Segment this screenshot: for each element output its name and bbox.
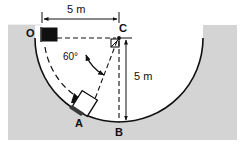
physics-diagram: O C A B 5 m 5 m 60° — [0, 0, 245, 149]
label-dim-vertical: 5 m — [134, 71, 152, 82]
label-angle: 60° — [63, 52, 78, 62]
label-dim-horizontal: 5 m — [67, 4, 85, 15]
label-point-a: A — [75, 118, 83, 129]
label-point-o: O — [26, 28, 35, 39]
start-block-body — [42, 28, 57, 41]
label-point-b: B — [115, 127, 123, 138]
label-point-c: C — [119, 23, 127, 34]
start-block — [41, 27, 57, 42]
